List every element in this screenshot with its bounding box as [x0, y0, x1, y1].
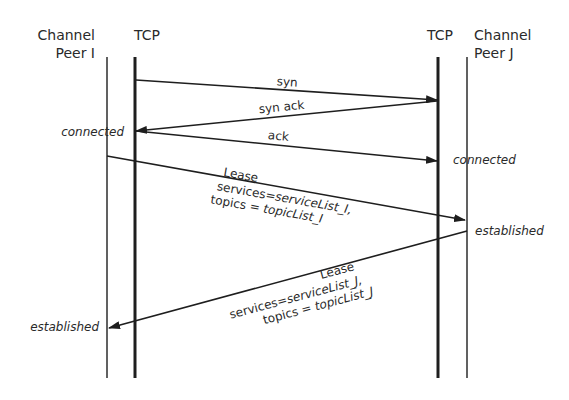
peer-i-label-line1: Channel [38, 27, 95, 43]
peer-i-label-line2: Peer I [55, 45, 95, 61]
header-peer-j: Channel Peer J [474, 27, 531, 61]
peer-j-label-line2: Peer J [474, 45, 514, 61]
syn-label: syn [276, 74, 298, 89]
header-peer-i: Channel Peer I [38, 27, 95, 61]
peer-i-established-state: established [30, 320, 99, 334]
peer-j-established-state: established [475, 224, 544, 238]
tcp-i-label: TCP [133, 27, 160, 43]
peer-j-connected-state: connected [453, 153, 516, 167]
peer-j-label-line1: Channel [474, 27, 531, 43]
peer-i-connected-state: connected [61, 125, 124, 139]
tcp-j-label: TCP [426, 27, 453, 43]
lease-j-label: Lease services=serviceList_J, topics = t… [224, 256, 375, 335]
sequence-diagram: Channel Peer I TCP TCP Channel Peer J sy… [0, 0, 569, 400]
ack-label: ack [267, 128, 289, 144]
syn-ack-label: syn ack [258, 98, 305, 116]
